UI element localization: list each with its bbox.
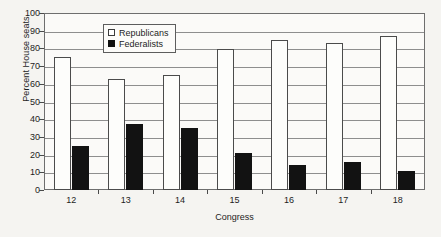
y-tick-label: 30 — [2, 132, 40, 142]
y-tick-label: 10 — [2, 167, 40, 177]
legend-item-republicans: Republicans — [108, 27, 169, 38]
x-tick-mark — [207, 190, 208, 194]
y-tick-label: 50 — [2, 97, 40, 107]
x-tick-mark — [98, 190, 99, 194]
x-tick-label: 17 — [338, 195, 348, 205]
y-tick-label: 60 — [2, 79, 40, 89]
bar-group — [380, 13, 415, 190]
legend-item-federalists: Federalists — [108, 38, 169, 49]
y-tick-label: 70 — [2, 61, 40, 71]
y-tick-label: 80 — [2, 43, 40, 53]
y-tick-label: 40 — [2, 114, 40, 124]
x-tick-label: 13 — [121, 195, 131, 205]
x-tick-mark — [371, 190, 372, 194]
legend-label: Republicans — [119, 28, 169, 38]
bar-federalists-17 — [344, 162, 361, 190]
bar-group — [271, 13, 306, 190]
bar-federalists-14 — [181, 128, 198, 190]
x-tick-label: 12 — [66, 195, 76, 205]
bar-federalists-13 — [126, 124, 143, 190]
bar-federalists-18 — [398, 171, 415, 190]
x-tick-label: 16 — [284, 195, 294, 205]
x-tick-label: 14 — [175, 195, 185, 205]
x-axis-title: Congress — [44, 212, 425, 222]
x-tick-mark — [262, 190, 263, 194]
bar-federalists-15 — [235, 153, 252, 190]
x-tick-mark — [316, 190, 317, 194]
bar-federalists-16 — [289, 165, 306, 190]
bar-republicans-17 — [326, 43, 343, 190]
hollow-square-swatch — [108, 29, 115, 36]
chart-legend: RepublicansFederalists — [103, 24, 176, 53]
x-tick-mark — [153, 190, 154, 194]
y-tick-label: 0 — [2, 185, 40, 195]
bar-republicans-18 — [380, 36, 397, 190]
bar-chart-figure: Percent House seats 01020304050607080901… — [0, 0, 441, 237]
y-axis-ticks: 0102030405060708090100 — [0, 13, 40, 190]
x-tick-label: 18 — [393, 195, 403, 205]
filled-square-swatch — [108, 40, 115, 47]
bar-republicans-16 — [271, 40, 288, 190]
bar-republicans-12 — [54, 57, 71, 190]
bar-group — [54, 13, 89, 190]
bars-layer — [44, 13, 425, 190]
bar-republicans-14 — [163, 75, 180, 190]
bar-republicans-15 — [217, 49, 234, 190]
bar-federalists-12 — [72, 146, 89, 190]
y-tick-label: 90 — [2, 26, 40, 36]
bar-group — [326, 13, 361, 190]
bar-republicans-13 — [108, 79, 125, 190]
x-axis-labels: 12131415161718 — [44, 195, 425, 211]
y-tick-label: 100 — [2, 8, 40, 18]
legend-label: Federalists — [119, 39, 163, 49]
x-tick-label: 15 — [229, 195, 239, 205]
bar-group — [217, 13, 252, 190]
y-tick-label: 20 — [2, 150, 40, 160]
